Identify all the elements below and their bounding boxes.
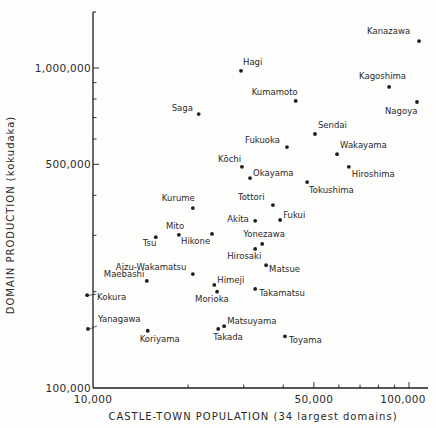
data-point: Matsue [264,263,300,274]
point-marker [86,327,90,331]
data-point: Tokushima [305,180,354,195]
point-label: Fukui [283,210,305,220]
data-point: Kōchi [218,154,244,169]
y-tick-label: 1,000,000 [35,62,91,74]
point-label: Himeji [217,275,244,285]
data-point: Kokura [85,292,126,302]
point-marker [197,112,201,116]
data-point: Morioka [195,290,229,304]
scatter-chart: 10,00050,000100,000100,000500,0001,000,0… [0,0,436,428]
data-point: Matsuyama [222,316,276,328]
point-marker [285,145,289,149]
x-axis-title: CASTLE-TOWN POPULATION (34 largest domai… [108,411,397,422]
point-marker [253,219,257,223]
point-label: Kagoshima [359,71,406,81]
point-label: Kumamoto [252,87,298,97]
data-point: Hikone [181,232,214,246]
point-label: Fukuoka [245,135,280,145]
point-marker [240,165,244,169]
point-label: Matsuyama [227,316,276,326]
point-label: Maebashi [104,269,145,279]
point-marker [222,324,226,328]
point-label: Saga [172,103,193,113]
point-marker [253,287,257,291]
point-marker [415,100,419,104]
point-label: Hirosaki [227,251,261,261]
point-label: Morioka [195,294,229,304]
point-marker [216,327,220,331]
point-marker [146,329,150,333]
point-label: Sendai [318,120,347,130]
data-point: Yonezawa [242,229,285,246]
point-marker [417,39,421,43]
point-marker [271,203,275,207]
point-label: Tottori [237,192,265,202]
point-marker [387,85,391,89]
x-tick-label: 100,000 [380,393,426,405]
point-label: Takada [212,332,243,342]
y-axis-title: DOMAIN PRODUCTION (kokudaka) [5,116,16,314]
data-point: Maebashi [104,269,149,283]
data-point: Tottori [237,192,275,207]
point-label: Okayama [253,168,293,178]
point-marker [191,206,195,210]
data-point: Kumamoto [252,87,298,103]
data-point: Sendai [313,120,347,136]
data-point: Koriyama [140,329,180,344]
point-label: Matsue [269,264,300,274]
data-point: Takada [212,327,243,342]
data-point: Himeji [212,275,244,287]
point-marker [191,272,195,276]
point-marker [239,69,243,73]
point-marker [177,233,181,237]
data-point: Hagi [239,57,262,73]
point-marker [294,99,298,103]
data-point: Nagoya [385,100,419,116]
data-point: Wakayama [335,140,387,156]
point-marker [278,218,282,222]
leader-line [89,294,96,295]
point-label: Tsu [142,238,157,248]
data-point: Hirosaki [227,247,261,261]
data-point: Hiroshima [347,165,395,179]
point-marker [260,242,264,246]
point-label: Koriyama [140,334,180,344]
point-label: Wakayama [340,140,387,150]
data-point: Mito [166,221,184,237]
point-marker [85,293,89,297]
data-point: Saga [172,103,201,116]
data-point: Tsu [142,235,158,248]
point-label: Hikone [181,236,210,246]
point-marker [335,152,339,156]
point-marker [313,132,317,136]
point-marker [210,232,214,236]
point-marker [212,283,216,287]
data-points: KanazawaHagiKagoshimaKumamotoNagoyaSagaS… [85,26,421,345]
data-point: Akita [227,214,257,224]
data-point: Okayama [248,168,293,180]
point-marker [283,334,287,338]
data-point: Fukui [278,210,305,222]
point-marker [347,165,351,169]
point-marker [145,279,149,283]
x-tick-label: 10,000 [74,393,113,405]
point-label: Kōchi [218,154,241,164]
y-tick-label: 500,000 [45,158,91,170]
data-point: Kagoshima [359,71,406,89]
point-marker [305,180,309,184]
point-label: Kurume [162,193,195,203]
data-point: Takamatsu [253,287,305,298]
point-label: Takamatsu [258,288,305,298]
point-marker [264,263,268,267]
data-point: Fukuoka [245,135,289,149]
point-label: Hiroshima [352,169,395,179]
y-tick-label: 100,000 [45,382,91,394]
data-point: Kanazawa [367,26,421,43]
point-label: Akita [227,214,249,224]
x-tick-label: 50,000 [295,393,334,405]
data-point: Toyama [283,334,322,345]
point-label: Nagoya [385,106,417,116]
point-label: Kokura [97,292,126,302]
point-label: Toyama [288,335,322,345]
point-label: Yanagawa [97,314,141,324]
